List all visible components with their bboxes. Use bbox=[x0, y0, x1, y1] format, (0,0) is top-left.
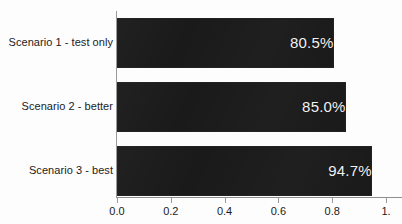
x-tick-mark bbox=[332, 198, 333, 203]
x-tick-label: 1. bbox=[381, 205, 390, 217]
category-label-scenario-1: Scenario 1 - test only bbox=[0, 37, 113, 48]
bar-row: 85.0% bbox=[117, 82, 346, 132]
x-tick-mark bbox=[225, 198, 226, 203]
x-tick-mark bbox=[171, 198, 172, 203]
bar-value-label: 80.5% bbox=[117, 18, 334, 68]
category-label-scenario-3: Scenario 3 - best bbox=[0, 165, 113, 176]
bar-row: 94.7% bbox=[117, 146, 372, 196]
x-tick-label: 0.4 bbox=[217, 205, 232, 217]
bar-value-label: 85.0% bbox=[117, 82, 346, 132]
category-label-scenario-2: Scenario 2 - better bbox=[0, 101, 113, 112]
x-axis-line bbox=[116, 197, 402, 198]
x-tick-label: 0.6 bbox=[271, 205, 286, 217]
x-tick-mark bbox=[278, 198, 279, 203]
x-tick-mark bbox=[117, 198, 118, 203]
bar-row: 80.5% bbox=[117, 18, 334, 68]
x-tick-label: 0.0 bbox=[109, 205, 124, 217]
plot-area: 80.5% 85.0% 94.7% bbox=[117, 12, 402, 198]
x-tick-mark bbox=[386, 198, 387, 203]
x-tick-label: 0.2 bbox=[163, 205, 178, 217]
x-tick-label: 0.8 bbox=[325, 205, 340, 217]
y-axis-line bbox=[116, 11, 117, 198]
bar-value-label: 94.7% bbox=[117, 146, 372, 196]
bar-chart: Scenario 1 - test only Scenario 2 - bett… bbox=[0, 0, 402, 224]
